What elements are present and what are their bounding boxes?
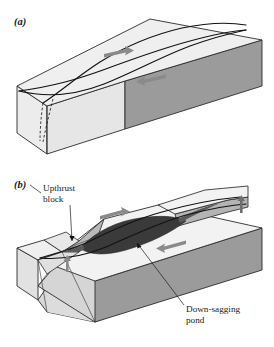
down-sagging-pond-callout-line1: Down-sagging <box>186 304 241 314</box>
down-sagging-pond-callout-line2: pond <box>186 315 205 325</box>
figure-container: (a) <box>0 0 274 347</box>
upthrust-block-callout-line2: block <box>43 194 64 204</box>
panel-b-label: (b) <box>14 179 26 191</box>
upthrust-block-callout-line1: Upthrust <box>43 183 76 193</box>
block-diagram-figure: (a) <box>0 0 274 347</box>
panel-a-label: (a) <box>14 16 26 28</box>
